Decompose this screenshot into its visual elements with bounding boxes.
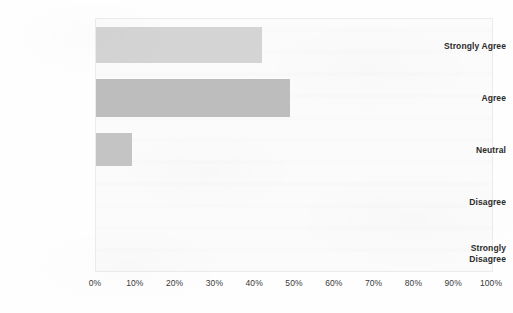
x-tick-label: 50% bbox=[285, 278, 302, 288]
bar-agree bbox=[96, 79, 290, 117]
x-tick-label: 80% bbox=[405, 278, 422, 288]
y-axis-label-line: Strongly bbox=[471, 243, 506, 253]
y-axis-label-line: Neutral bbox=[476, 145, 506, 155]
y-axis-label-neutral: Neutral bbox=[425, 145, 513, 156]
y-axis-label-disagree: Disagree bbox=[425, 197, 513, 208]
y-axis-label-line: Agree bbox=[481, 93, 506, 103]
x-tick-label: 70% bbox=[365, 278, 382, 288]
bar-neutral bbox=[96, 133, 132, 166]
x-tick-label: 30% bbox=[206, 278, 223, 288]
y-axis-label-line: Disagree bbox=[469, 254, 506, 264]
x-tick-label: 100% bbox=[480, 278, 502, 288]
y-axis-label-strongly-disagree: Strongly Disagree bbox=[425, 243, 513, 264]
x-tick-label: 0% bbox=[89, 278, 102, 288]
x-tick-label: 90% bbox=[445, 278, 462, 288]
bar-strongly-agree bbox=[96, 27, 262, 63]
y-axis-label-line: Disagree bbox=[469, 197, 506, 207]
x-tick-label: 10% bbox=[126, 278, 143, 288]
x-tick-label: 40% bbox=[246, 278, 263, 288]
x-axis: 0% 10% 20% 30% 40% 50% 60% 70% 80% 90% 1… bbox=[95, 278, 493, 294]
y-axis-label-strongly-agree: Strongly Agree bbox=[425, 41, 513, 52]
y-axis-label-agree: Agree bbox=[425, 93, 513, 104]
x-tick-label: 20% bbox=[166, 278, 183, 288]
x-tick-label: 60% bbox=[325, 278, 342, 288]
bar-chart: Strongly Agree Agree Neutral Disagree St… bbox=[0, 0, 513, 313]
y-axis-label-line: Strongly Agree bbox=[444, 41, 506, 51]
